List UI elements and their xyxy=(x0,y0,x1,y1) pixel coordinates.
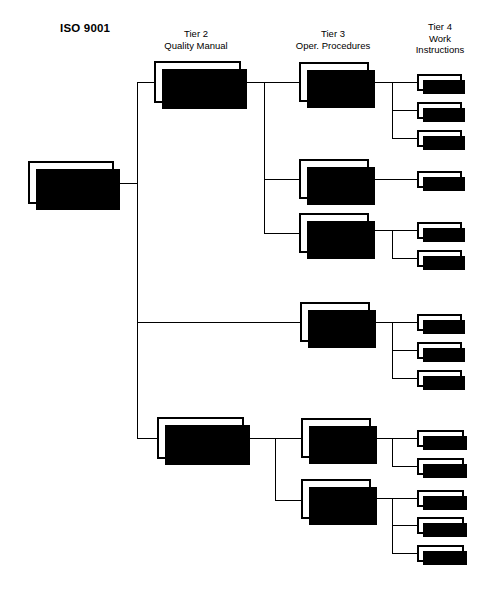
edge-qm2-bus xyxy=(275,438,276,500)
edge-qm2-to-p5 xyxy=(275,438,302,439)
edge-qm2-to-p6 xyxy=(275,500,302,501)
edge-p3-to-w6 xyxy=(392,258,418,259)
node-p6[interactable]: P6 xyxy=(301,479,371,519)
node-p4[interactable]: P4 xyxy=(300,302,370,342)
edge-p4-to-w7 xyxy=(392,322,418,323)
node-qm2[interactable]: QM 2 xyxy=(157,417,244,459)
edge-qm1-bus xyxy=(264,82,265,233)
edge-qm1-to-p2 xyxy=(264,179,300,180)
edge-qm1-to-p1 xyxy=(264,82,300,83)
edge-p2-to-w4 xyxy=(368,179,418,180)
node-w14[interactable]: W14 xyxy=(417,545,464,562)
node-p2[interactable]: P2 xyxy=(299,159,369,199)
node-w6[interactable]: W6 xyxy=(417,250,462,267)
edge-p5-to-w10 xyxy=(392,438,418,439)
diagram-title: ISO 9001 xyxy=(60,22,110,34)
edge-qm1-to-p3 xyxy=(264,233,300,234)
node-p3[interactable]: P3 xyxy=(299,213,369,253)
edge-p6-to-w13 xyxy=(392,525,418,526)
column-header-tier4-line3: Instructions xyxy=(416,44,465,56)
node-w4[interactable]: W4 xyxy=(417,171,462,188)
edge-trunk-to-qm1 xyxy=(137,82,155,83)
edge-p1-to-w2 xyxy=(392,110,418,111)
node-w13[interactable]: W13 xyxy=(417,517,464,534)
column-header-tier2-line1: Tier 2 xyxy=(164,28,227,40)
node-w8[interactable]: W8 xyxy=(417,342,462,359)
edge-p6-to-w12 xyxy=(392,498,418,499)
edge-p4-to-w9 xyxy=(392,378,418,379)
node-p1[interactable]: P1 xyxy=(299,62,369,102)
node-w2[interactable]: W2 xyxy=(417,102,462,119)
node-w12[interactable]: W12 xyxy=(417,490,464,507)
edge-p3-bus xyxy=(392,230,393,258)
edge-p4-to-w8 xyxy=(392,350,418,351)
column-header-tier3: Tier 3 Oper. Procedures xyxy=(296,28,370,51)
edge-main-trunk xyxy=(137,82,138,439)
node-w7[interactable]: W7 xyxy=(417,314,462,331)
iso-9001-hierarchy-diagram: ISO 9001 Tier 2 Quality Manual Tier 3 Op… xyxy=(0,0,483,589)
node-qm1[interactable]: QM 1 xyxy=(154,61,241,103)
edge-p5-to-w11 xyxy=(392,466,418,467)
edge-trunk-to-p4 xyxy=(137,322,301,323)
node-w1[interactable]: W1 xyxy=(417,74,462,91)
column-header-tier4: Tier 4 Work Instructions xyxy=(416,21,465,56)
column-header-tier3-line2: Oper. Procedures xyxy=(296,40,370,52)
node-w9[interactable]: W9 xyxy=(417,370,462,387)
column-header-tier3-line1: Tier 3 xyxy=(296,28,370,40)
node-p5[interactable]: P5 xyxy=(301,418,371,458)
column-header-tier2: Tier 2 Quality Manual xyxy=(164,28,227,51)
node-w3[interactable]: W3 xyxy=(417,130,462,147)
node-w5[interactable]: W5 xyxy=(417,222,462,239)
edge-trunk-to-qm2 xyxy=(137,438,158,439)
edge-p6-to-w14 xyxy=(392,553,418,554)
node-4-1[interactable]: 4.1 xyxy=(28,161,114,204)
edge-p1-to-w1 xyxy=(392,82,418,83)
node-w10[interactable]: W10 xyxy=(417,430,464,447)
column-header-tier4-line2: Work xyxy=(416,33,465,45)
edge-p3-to-w5 xyxy=(392,230,418,231)
node-w11[interactable]: W11 xyxy=(417,458,464,475)
edge-p5-bus xyxy=(392,438,393,466)
column-header-tier4-line1: Tier 4 xyxy=(416,21,465,33)
edge-p1-to-w3 xyxy=(392,138,418,139)
column-header-tier2-line2: Quality Manual xyxy=(164,40,227,52)
